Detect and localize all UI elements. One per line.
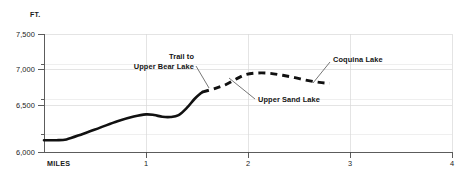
x-tick-label-2: 2 — [246, 159, 250, 168]
annotation-coquina-lake: Coquina Lake — [313, 55, 383, 83]
y-tick-label-7500: 7,500 — [16, 30, 35, 39]
annotation-upper-bear-lake-line2: Upper Bear Lake — [134, 62, 194, 71]
y-tick-label-7000: 7,000 — [16, 65, 35, 74]
leader-line-coquina-lake — [313, 62, 330, 83]
x-axis-unit-label: MILES — [47, 159, 70, 168]
y-axis-labels: FT. 7,500 7,000 6,500 6,000 — [16, 11, 40, 157]
profile-line-solid — [44, 92, 202, 140]
x-axis-labels: MILES 1 2 3 4 — [47, 159, 454, 168]
profile-line-dashed — [202, 73, 330, 92]
axes — [38, 34, 452, 158]
elevation-profile-chart: FT. 7,500 7,000 6,500 6,000 MILES 1 2 3 … — [0, 0, 468, 179]
annotation-upper-sand-lake-label: Upper Sand Lake — [258, 95, 320, 104]
y-tick-label-6500: 6,500 — [16, 101, 35, 110]
y-axis-unit-label: FT. — [30, 11, 40, 18]
annotation-upper-bear-lake: Trail to Upper Bear Lake — [134, 52, 209, 88]
annotation-upper-sand-lake: Upper Sand Lake — [229, 78, 320, 104]
x-tick-label-4: 4 — [450, 159, 454, 168]
x-tick-label-3: 3 — [348, 159, 352, 168]
x-tick-label-1: 1 — [144, 159, 148, 168]
profile-series-group — [44, 73, 330, 140]
leader-line-upper-sand-lake — [229, 78, 255, 99]
elevation-profile-figure: FT. 7,500 7,000 6,500 6,000 MILES 1 2 3 … — [0, 0, 468, 179]
y-tick-label-6000: 6,000 — [16, 148, 35, 157]
annotation-upper-bear-lake-line1: Trail to — [169, 52, 194, 61]
annotation-coquina-lake-label: Coquina Lake — [333, 55, 383, 64]
